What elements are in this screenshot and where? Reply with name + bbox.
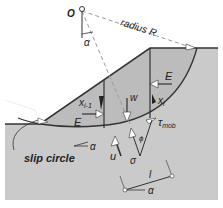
l-right-node [170,174,174,178]
center-label: O [67,8,75,19]
alpha-top-label: α [84,37,90,48]
weight-label: w [130,92,138,103]
E-right-label: E [165,70,173,82]
E-left-label: E [74,116,82,128]
l-left-node [123,188,127,192]
slope-stability-diagram: O radius R α E xi xi-1 E w τmob ϕ σ u α … [0,0,223,208]
u-label: u [110,150,116,162]
phi-label: ϕ [139,134,144,143]
alpha-bottom-label: α [148,185,154,196]
alpha-mid-label: α [90,141,96,152]
radius-label: radius R [119,16,158,38]
structure-outline [5,100,40,124]
sigma-label: σ [130,155,137,166]
center-point [80,7,85,12]
slip-circle-label: slip circle [24,152,75,164]
